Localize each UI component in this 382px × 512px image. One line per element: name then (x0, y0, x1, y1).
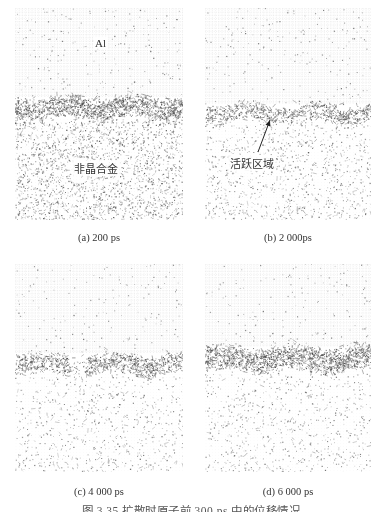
active-region-label: 活跃区域 (228, 155, 276, 171)
panel-c-label: (c) 4 000 ps (59, 486, 139, 497)
amorphous-alloy-label: 非晶合金 (72, 160, 120, 176)
figure-caption: 图 3.35 扩散时原子前 300 ps 中的位移情况 (0, 502, 382, 512)
al-region-label: Al (93, 37, 108, 49)
atom-scatter-plot (205, 264, 371, 472)
panel-d-6000ps (205, 264, 371, 472)
atom-scatter-plot (205, 8, 371, 220)
panel-b-2000ps (205, 8, 371, 220)
atom-scatter-plot (15, 264, 183, 472)
panel-a-label: (a) 200 ps (59, 232, 139, 243)
panel-b-label: (b) 2 000ps (248, 232, 328, 243)
panel-d-label: (d) 6 000 ps (248, 486, 328, 497)
figure-caption-container: 图 3.35 扩散时原子前 300 ps 中的位移情况 (0, 501, 382, 512)
panel-c-4000ps (15, 264, 183, 472)
